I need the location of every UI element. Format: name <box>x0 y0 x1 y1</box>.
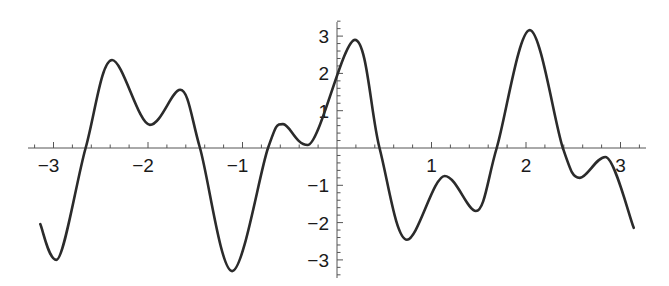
x-tick-label: −1 <box>227 155 249 176</box>
x-tick-labels: −3−2−1123 <box>38 155 626 176</box>
y-tick-label: −3 <box>307 250 329 271</box>
line-chart: −3−2−1123 −3−2−1123 <box>0 0 669 286</box>
y-tick-label: 2 <box>318 63 329 84</box>
x-tick-label: 2 <box>521 155 532 176</box>
y-tick-label: 3 <box>318 26 329 47</box>
x-tick-label: −3 <box>38 155 60 176</box>
x-tick-label: −2 <box>132 155 154 176</box>
x-tick-label: 1 <box>426 155 437 176</box>
y-tick-label: −1 <box>307 175 329 196</box>
y-tick-label: −2 <box>307 213 329 234</box>
